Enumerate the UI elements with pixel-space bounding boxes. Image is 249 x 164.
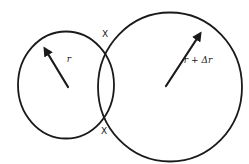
radius-arrow-small <box>45 49 68 87</box>
large-circle <box>98 13 242 162</box>
large-radius-label: r + Δr <box>184 56 212 65</box>
intersection-bottom-label: X <box>101 127 107 136</box>
circle-intersection-figure: r r + Δr X X <box>0 0 249 164</box>
two-circles-diagram <box>0 0 249 164</box>
intersection-top-label: X <box>102 30 108 39</box>
small-radius-label: r <box>67 55 71 64</box>
